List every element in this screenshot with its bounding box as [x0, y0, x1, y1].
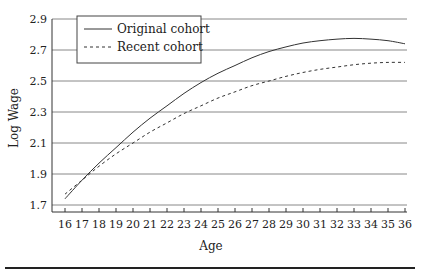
y-tick-label: 2.9 — [30, 13, 48, 26]
x-tick-label: 27 — [245, 218, 259, 231]
x-axis-ticks: 1617181920212223242526272829303132333435… — [58, 208, 412, 231]
x-tick-label: 18 — [92, 218, 106, 231]
x-tick-label: 24 — [194, 218, 208, 231]
x-tick-label: 17 — [75, 218, 89, 231]
y-tick-label: 2.3 — [30, 106, 48, 119]
x-tick-label: 36 — [398, 218, 412, 231]
x-tick-label: 32 — [330, 218, 344, 231]
line-chart: 1.71.92.12.32.52.72.9 161718192021222324… — [0, 0, 421, 270]
x-tick-label: 33 — [347, 218, 361, 231]
y-tick-label: 2.5 — [30, 75, 48, 88]
x-tick-label: 22 — [160, 218, 174, 231]
y-axis-title: Log Wage — [7, 88, 21, 148]
x-tick-label: 35 — [381, 218, 395, 231]
y-tick-label: 1.7 — [30, 199, 48, 212]
x-tick-label: 29 — [279, 218, 293, 231]
x-tick-label: 16 — [58, 218, 72, 231]
x-tick-label: 31 — [313, 218, 327, 231]
y-axis-tick-labels: 1.71.92.12.32.52.72.9 — [30, 13, 48, 212]
x-tick-label: 30 — [296, 218, 310, 231]
x-tick-label: 23 — [177, 218, 191, 231]
x-tick-label: 28 — [262, 218, 276, 231]
legend-label-original: Original cohort — [117, 22, 210, 36]
x-axis-title: Age — [198, 239, 222, 253]
x-tick-label: 26 — [228, 218, 242, 231]
legend: Original cohort Recent cohort — [77, 16, 210, 63]
x-tick-label: 20 — [126, 218, 140, 231]
x-tick-label: 21 — [143, 218, 157, 231]
y-tick-label: 1.9 — [30, 168, 48, 181]
y-tick-label: 2.7 — [30, 44, 48, 57]
x-tick-label: 34 — [364, 218, 378, 231]
x-tick-label: 25 — [211, 218, 225, 231]
x-tick-label: 19 — [109, 218, 123, 231]
y-tick-label: 2.1 — [30, 137, 48, 150]
legend-label-recent: Recent cohort — [117, 40, 203, 54]
